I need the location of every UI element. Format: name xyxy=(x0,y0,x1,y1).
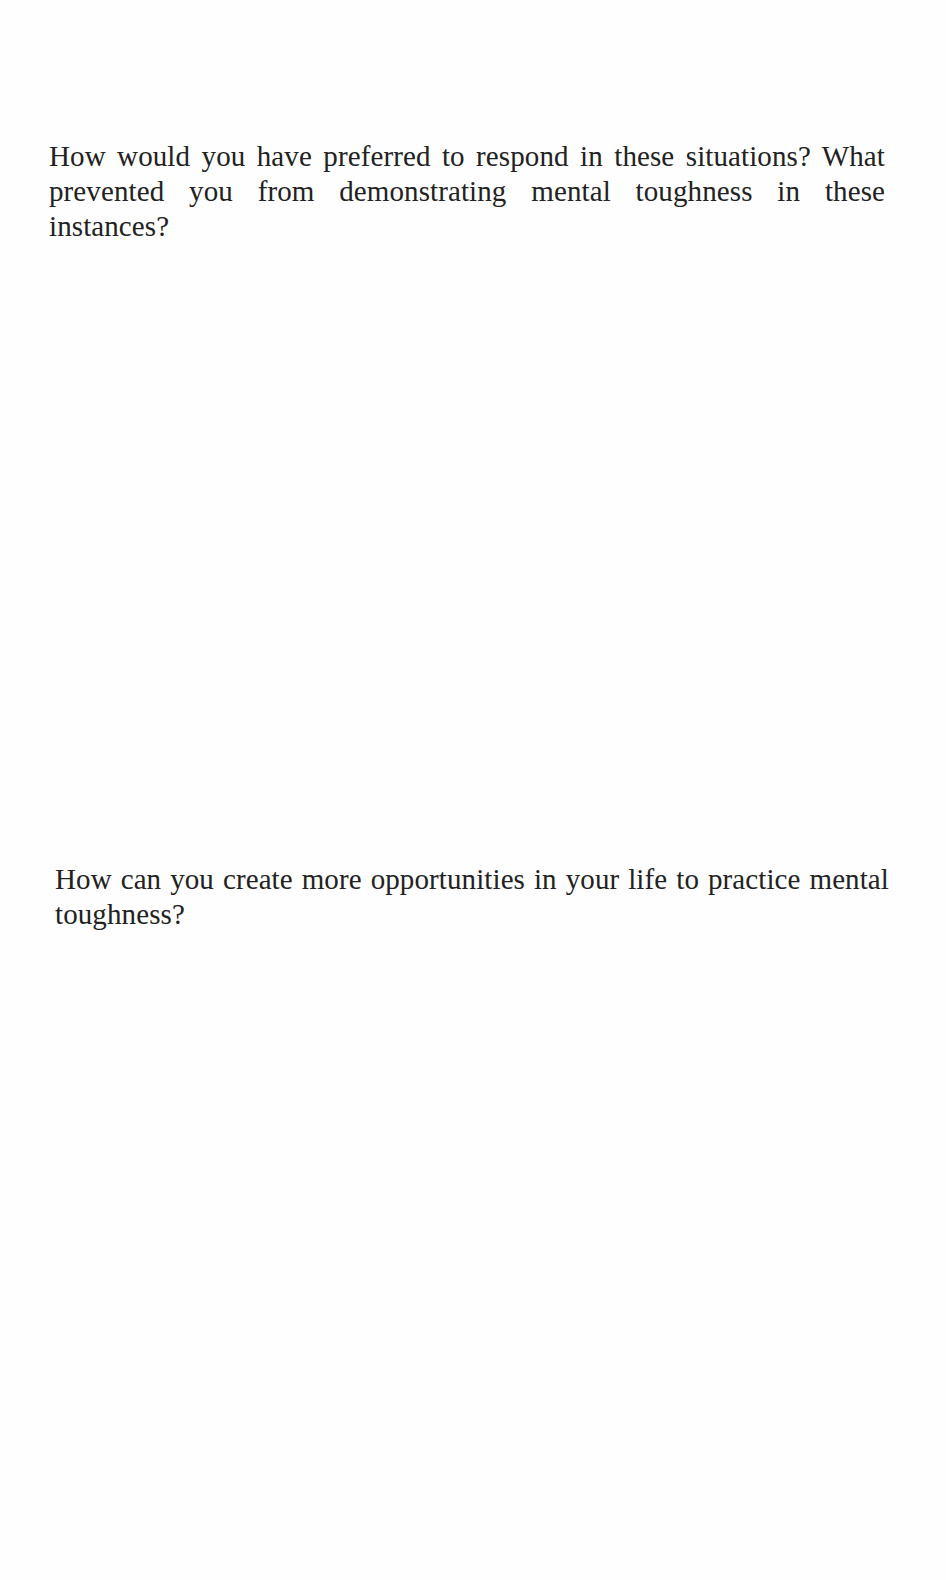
reflection-prompt-preferred-response: How would you have preferred to respond … xyxy=(49,139,885,244)
reflection-prompt-create-opportunities: How can you create more opportunities in… xyxy=(55,862,889,932)
answer-space-2 xyxy=(49,945,889,1545)
answer-space-1 xyxy=(49,260,889,820)
